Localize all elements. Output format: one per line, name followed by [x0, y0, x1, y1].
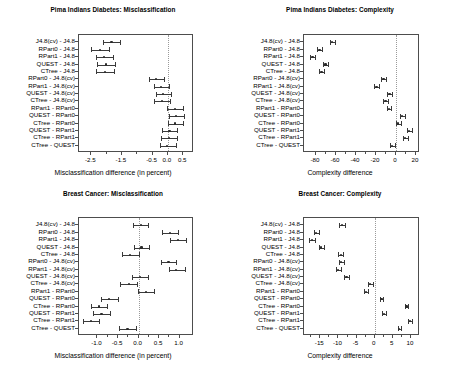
y-axis-tick — [75, 239, 78, 240]
interval-cap-lower — [154, 84, 155, 89]
interval-cap-lower — [169, 114, 170, 119]
y-axis-tick — [75, 320, 78, 321]
x-axis-tick-label: 0.0 — [133, 340, 142, 346]
y-axis-tick — [75, 100, 78, 101]
y-axis-tick-label: RPart0 - J4.8 — [39, 229, 75, 235]
interval-cap-lower — [168, 121, 169, 126]
x-axis-tick — [355, 152, 356, 155]
x-axis-minor-tick — [168, 335, 169, 337]
point-estimate — [140, 246, 142, 248]
y-axis-tick — [75, 269, 78, 270]
x-axis-title: Misclassification difference (in percent… — [0, 169, 226, 176]
point-estimate — [365, 291, 367, 293]
x-axis-tick — [415, 152, 416, 155]
x-axis-tick-label: -10 — [333, 340, 342, 346]
x-axis-tick — [179, 335, 180, 338]
y-axis-tick-label: CTree - RPart1 — [258, 134, 300, 140]
x-axis-tick — [337, 335, 338, 338]
x-axis-tick — [117, 335, 118, 338]
x-axis-title: Complexity difference — [227, 169, 453, 176]
y-axis-tick — [300, 145, 303, 146]
y-axis-tick — [300, 64, 303, 65]
point-estimate — [168, 130, 170, 132]
x-axis-minor-tick — [347, 335, 348, 337]
point-estimate — [311, 56, 313, 58]
y-axis-tick-label: RPart0 - J4.8(cv) — [253, 258, 300, 264]
y-axis-tick-label: RPart1 - RPart0 — [31, 105, 75, 111]
y-axis-tick — [300, 130, 303, 131]
x-axis-tick-label: -80 — [311, 157, 320, 163]
y-axis-tick — [75, 232, 78, 233]
interval-cap-lower — [96, 69, 97, 74]
interval-cap-upper — [184, 114, 185, 119]
interval-cap-upper — [171, 92, 172, 97]
plot-area — [78, 34, 193, 152]
point-estimate — [391, 145, 393, 147]
interval-cap-upper — [315, 238, 316, 243]
y-axis-tick-label: RPart0 - J4.8 — [264, 229, 300, 235]
y-axis-tick — [300, 93, 303, 94]
x-axis-tick-label: 20 — [412, 157, 419, 163]
y-axis-tick-label: RPart1 - J4.8(cv) — [253, 266, 300, 272]
interval-cap-upper — [408, 304, 409, 309]
y-axis-tick — [75, 49, 78, 50]
panel-title: Breast Cancer: Complexity — [227, 190, 453, 197]
figure-canvas: Pima Indians Diabetes: Misclassification… — [0, 0, 453, 375]
y-axis-tick-label: QUEST - RPart1 — [254, 127, 300, 133]
y-axis-tick — [75, 254, 78, 255]
y-axis-tick — [300, 100, 303, 101]
x-axis-minor-tick — [106, 152, 107, 154]
y-axis-tick-label: J4.8(cv) - J4.8 — [261, 38, 300, 44]
y-axis-tick — [300, 320, 303, 321]
x-axis-minor-tick — [365, 152, 366, 154]
interval-cap-upper — [148, 275, 149, 280]
interval-cap-upper — [319, 230, 320, 235]
interval-cap-upper — [186, 238, 187, 243]
x-axis-minor-tick — [127, 335, 128, 337]
y-axis-tick — [75, 71, 78, 72]
y-axis-tick-label: RPart1 - J4.8 — [39, 236, 75, 242]
y-axis-tick — [300, 283, 303, 284]
y-axis-tick-label: RPart1 - J4.8 — [264, 53, 300, 59]
y-axis-tick-label: CTree - RPart0 — [33, 119, 75, 125]
x-axis-tick — [167, 152, 168, 155]
point-estimate — [99, 49, 101, 51]
y-axis-tick-label: QUEST - RPart0 — [254, 295, 300, 301]
interval-cap-upper — [388, 99, 389, 104]
y-axis-tick — [300, 291, 303, 292]
interval-cap-lower — [122, 252, 123, 257]
x-axis-minor-tick — [328, 335, 329, 337]
y-axis-tick-label: J4.8(cv) - J4.8 — [261, 221, 300, 227]
y-axis-tick-label: QUEST - RPart0 — [29, 112, 75, 118]
interval-cap-lower — [162, 128, 163, 133]
interval-cap-upper — [343, 252, 344, 257]
y-axis-tick — [75, 78, 78, 79]
x-axis-tick-label: -40 — [351, 157, 360, 163]
interval-cap-lower — [161, 136, 162, 141]
y-axis-tick — [75, 306, 78, 307]
x-axis-tick — [356, 335, 357, 338]
y-axis-tick-label: QUEST - RPart1 — [29, 127, 75, 133]
x-axis-tick — [315, 152, 316, 155]
y-axis-tick-label: CTree - RPart0 — [258, 119, 300, 125]
interval-cap-upper — [379, 84, 380, 89]
y-axis-tick — [300, 306, 303, 307]
x-axis-minor-tick — [107, 335, 108, 337]
y-axis-tick — [300, 49, 303, 50]
interval-cap-upper — [401, 121, 402, 126]
y-axis-labels: J4.8(cv) - J4.8RPart0 - J4.8RPart1 - J4.… — [0, 34, 75, 152]
interval-cap-lower — [149, 77, 150, 82]
x-axis-tick-label: -0.5 — [146, 157, 157, 163]
x-axis-minor-tick — [148, 335, 149, 337]
y-axis-tick-label: CTree - J4.8(cv) — [256, 97, 300, 103]
point-estimate — [388, 93, 390, 95]
point-estimate — [340, 254, 342, 256]
interval-cap-lower — [170, 238, 171, 243]
interval-cap-upper — [178, 230, 179, 235]
y-axis-tick — [300, 247, 303, 248]
y-axis-labels: J4.8(cv) - J4.8RPart0 - J4.8RPart1 - J4.… — [227, 34, 300, 152]
interval-cap-upper — [368, 289, 369, 294]
y-axis-tick-label: RPart1 - RPart0 — [31, 288, 75, 294]
y-axis-tick-label: CTree - QUEST — [256, 325, 300, 331]
y-axis-tick — [300, 78, 303, 79]
